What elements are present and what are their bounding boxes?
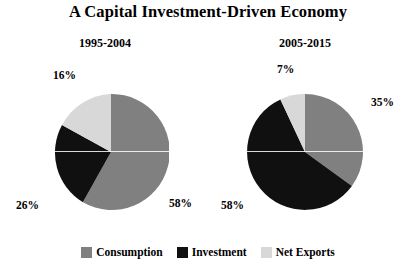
pie-label-consumption-left: 58% — [169, 197, 192, 210]
pie-chart-2005-2015 — [247, 94, 363, 210]
pie-chart-1995-2004 — [53, 94, 169, 210]
pie-label-investment-left: 26% — [16, 199, 39, 212]
chart-figure: A Capital Investment-Driven Economy 1995… — [0, 0, 416, 268]
panel-title-left: 1995-2004 — [45, 36, 165, 50]
legend-swatch-investment-icon — [177, 247, 188, 258]
panel-title-right: 2005-2015 — [245, 36, 365, 50]
legend-label-investment: Investment — [192, 246, 247, 259]
legend-item-consumption: Consumption — [81, 246, 162, 259]
pie-svg-right — [247, 94, 363, 210]
legend-swatch-net-exports-icon — [261, 247, 272, 258]
pie-label-net-exports-left: 16% — [53, 69, 76, 82]
chart-legend: Consumption Investment Net Exports — [0, 246, 416, 259]
legend-label-net-exports: Net Exports — [276, 246, 335, 259]
legend-swatch-consumption-icon — [81, 247, 92, 258]
pie-svg-left — [53, 94, 169, 210]
page-title: A Capital Investment-Driven Economy — [0, 2, 416, 21]
pie-label-consumption-right: 35% — [371, 96, 394, 109]
legend-item-net-exports: Net Exports — [261, 246, 335, 259]
pie-label-investment-right: 58% — [221, 199, 244, 212]
pie-label-net-exports-right: 7% — [277, 63, 294, 76]
legend-label-consumption: Consumption — [96, 246, 162, 259]
legend-item-investment: Investment — [177, 246, 247, 259]
